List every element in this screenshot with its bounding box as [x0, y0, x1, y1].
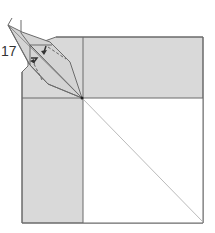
flap-tip: [8, 18, 12, 25]
center-point: [81, 97, 84, 100]
diagram-canvas: [0, 0, 215, 233]
step-number: 17: [1, 44, 17, 58]
origami-diagram: 17: [0, 0, 215, 233]
